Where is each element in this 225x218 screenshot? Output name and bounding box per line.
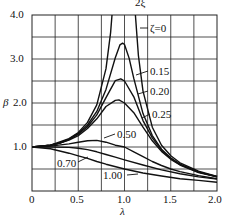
- x-tick-0.5: 0.5: [70, 194, 84, 205]
- leader-line: [136, 71, 148, 75]
- label-zeta-0: ζ=0: [150, 23, 166, 34]
- x-tick-1.0: 1.0: [117, 194, 131, 205]
- label-zeta-0.15: 0.15: [150, 66, 169, 77]
- label-zeta-0.25: 0.25: [152, 109, 171, 120]
- label-zeta-1.00: 1.00: [103, 170, 122, 181]
- leader-line: [104, 134, 115, 138]
- leader-line: [127, 174, 138, 175]
- y-tick-1: 1.0: [13, 141, 27, 152]
- x-axis-label: λ: [120, 206, 125, 217]
- x-tick-1.5: 1.5: [163, 194, 177, 205]
- y-tick-2: 2.0: [13, 97, 27, 108]
- y-axis-label: β: [3, 97, 8, 108]
- y-tick-3: 3.0: [10, 53, 24, 64]
- resonance-chart: [0, 0, 225, 218]
- label-zeta-0.70: 0.70: [57, 158, 76, 169]
- y-tick-4: 4.0: [10, 9, 24, 20]
- top-fragment: 2ξ: [135, 0, 145, 8]
- label-zeta-0.50: 0.50: [117, 129, 136, 140]
- x-tick-2.0: 2.0: [208, 194, 222, 205]
- x-tick-0: 0: [29, 194, 35, 205]
- label-zeta-0.20: 0.20: [150, 86, 169, 97]
